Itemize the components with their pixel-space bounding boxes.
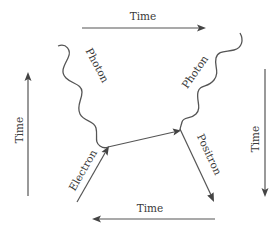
time-arrow-top: Time: [82, 10, 206, 32]
time-arrow-bottom: Time: [92, 202, 215, 223]
time-label-bottom: Time: [137, 202, 164, 214]
time-arrow-right: Time: [249, 69, 269, 197]
positron-line: Positron: [180, 129, 224, 202]
electron-line: Electron: [66, 146, 109, 202]
feynman-diagram: Time Time Time Time Photon Photon Electr…: [0, 0, 280, 237]
photon-right: Photon: [179, 33, 242, 130]
photon-left: Photon: [58, 45, 112, 147]
time-label-right: Time: [249, 126, 261, 153]
time-label-left: Time: [13, 117, 25, 144]
middle-propagator: [108, 129, 181, 147]
photon-label-right: Photon: [179, 53, 210, 91]
time-arrow-left: Time: [13, 72, 32, 196]
time-label-top: Time: [130, 10, 157, 22]
photon-label-left: Photon: [83, 46, 111, 85]
electron-label: Electron: [66, 147, 99, 193]
